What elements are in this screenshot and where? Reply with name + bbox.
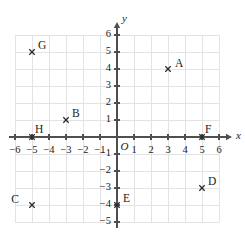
- x-axis-arrow-icon: [226, 134, 232, 140]
- x-tick-label: −6: [9, 144, 20, 155]
- x-tick-label: 3: [165, 144, 170, 155]
- y-tick-label: −1: [100, 147, 111, 158]
- point-label-e: E: [123, 192, 130, 204]
- origin-label: O: [121, 140, 129, 152]
- y-tick-label: 1: [106, 113, 111, 124]
- y-tick-label: 3: [106, 79, 111, 90]
- point-label-g: G: [38, 39, 46, 51]
- x-tick-label: −3: [60, 144, 71, 155]
- y-tick-label: −3: [100, 181, 111, 192]
- y-tick-label: 2: [106, 96, 111, 107]
- y-axis-arrow-icon: [114, 22, 120, 28]
- point-label-c: C: [11, 193, 19, 205]
- y-tick-label: 5: [106, 45, 111, 56]
- x-tick-label: 1: [131, 144, 136, 155]
- plotted-points: ABCDEFGH: [11, 39, 216, 208]
- x-axis-label: x: [235, 129, 241, 141]
- y-tick-label: −2: [100, 164, 111, 175]
- x-tick-label: −2: [77, 144, 88, 155]
- coordinate-plane-figure: −6−5−4−3−2−1123456654321−1−2−3−4−5 Oxy A…: [0, 0, 245, 235]
- point-label-h: H: [35, 123, 43, 135]
- y-axis-label: y: [121, 12, 127, 24]
- x-tick-label: 2: [148, 144, 153, 155]
- point-label-a: A: [175, 57, 184, 69]
- y-tick-label: −5: [100, 215, 111, 226]
- point-label-b: B: [72, 107, 80, 119]
- axis-names: Oxy: [121, 12, 242, 152]
- x-tick-label: 5: [199, 144, 204, 155]
- x-tick-label: 6: [216, 144, 221, 155]
- y-tick-label: 4: [106, 62, 112, 73]
- y-tick-label: 6: [106, 28, 111, 39]
- x-tick-label: −5: [26, 144, 37, 155]
- x-tick-label: −4: [43, 144, 55, 155]
- point-label-d: D: [208, 175, 216, 187]
- x-tick-label: 4: [182, 144, 188, 155]
- y-tick-label: −4: [100, 198, 112, 209]
- coordinate-plane-svg: −6−5−4−3−2−1123456654321−1−2−3−4−5 Oxy A…: [0, 0, 245, 235]
- point-label-f: F: [205, 123, 211, 135]
